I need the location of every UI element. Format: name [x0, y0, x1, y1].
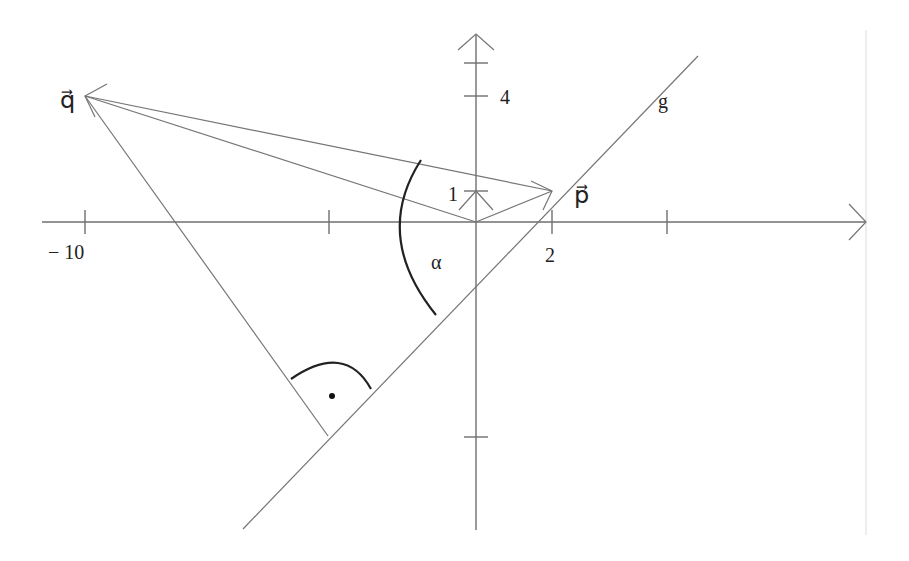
- y-axis: [458, 34, 494, 530]
- right-angle-dot: [329, 393, 335, 399]
- y-label-4: 4: [500, 86, 510, 108]
- label-vector-p: p⃗: [574, 182, 589, 208]
- perpendicular-line: [85, 96, 328, 436]
- label-line-g: g: [658, 90, 668, 113]
- vector-q: [85, 96, 476, 222]
- right-angle-arc: [291, 363, 371, 389]
- vector-p: [476, 181, 552, 222]
- y-label-1: 1: [448, 183, 458, 205]
- line-g: [243, 56, 698, 529]
- vector-diagram: q⃗ p⃗ g α − 10 2 4 1: [0, 0, 909, 561]
- x-label-minus10: − 10: [48, 241, 84, 263]
- angle-alpha-arc: [400, 160, 436, 315]
- x-label-2: 2: [545, 244, 555, 266]
- vector-q-to-p: [85, 96, 552, 191]
- label-vector-q: q⃗: [60, 87, 75, 113]
- label-alpha: α: [431, 251, 442, 273]
